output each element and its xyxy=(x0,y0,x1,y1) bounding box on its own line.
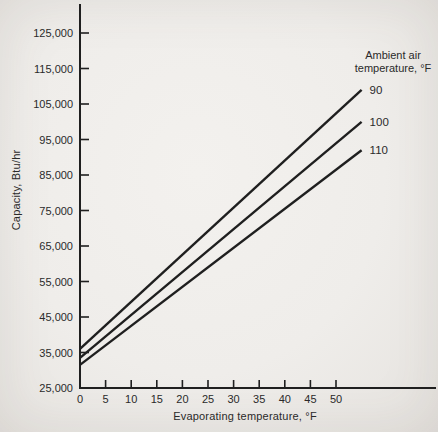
legend-title-line-1: Ambient air xyxy=(349,49,437,62)
x-tick-label: 15 xyxy=(151,393,163,405)
x-tick-label: 45 xyxy=(304,393,316,405)
y-tick-label: 85,000 xyxy=(39,169,73,181)
x-tick-label: 10 xyxy=(125,393,137,405)
y-tick-label: 55,000 xyxy=(39,276,73,288)
x-axis-title: Evaporating temperature, °F xyxy=(135,410,355,422)
y-axis-title: Capacity, Btu/hr xyxy=(10,150,22,231)
capacity-vs-evaporating-temperature-chart: 25,00035,00045,00055,00065,00075,00085,0… xyxy=(0,0,438,432)
x-tick-label: 35 xyxy=(253,393,265,405)
x-tick-label: 40 xyxy=(279,393,291,405)
x-tick-label: 20 xyxy=(176,393,188,405)
x-tick-label: 0 xyxy=(77,393,83,405)
series-label-110: 110 xyxy=(370,144,388,156)
x-tick-label: 30 xyxy=(227,393,239,405)
x-tick-label: 50 xyxy=(330,393,342,405)
series-line-110 xyxy=(80,150,362,365)
y-tick-label: 25,000 xyxy=(39,382,73,394)
y-tick-label: 65,000 xyxy=(39,240,73,252)
x-tick-label: 25 xyxy=(202,393,214,405)
y-tick-label: 105,000 xyxy=(33,98,73,110)
legend-title: Ambient air temperature, °F xyxy=(349,49,437,74)
legend-title-line-2: temperature, °F xyxy=(349,62,437,75)
y-tick-label: 95,000 xyxy=(39,134,73,146)
y-tick-label: 125,000 xyxy=(33,27,73,39)
series-line-90 xyxy=(80,90,362,349)
y-tick-label: 45,000 xyxy=(39,311,73,323)
x-tick-label: 5 xyxy=(103,393,109,405)
y-tick-label: 35,000 xyxy=(39,347,73,359)
y-tick-label: 115,000 xyxy=(34,63,73,75)
x-axis-ticks: 05101520253035404550 xyxy=(77,380,342,405)
series-lines xyxy=(80,90,362,365)
series-label-90: 90 xyxy=(370,84,383,96)
series-label-100: 100 xyxy=(370,116,389,128)
series-line-100 xyxy=(80,122,362,358)
series-labels: 90100110 xyxy=(370,84,389,156)
y-tick-label: 75,000 xyxy=(39,205,73,217)
